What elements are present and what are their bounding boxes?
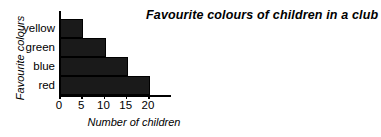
bar-row-green [61,38,211,57]
y-tick-label-green: green [14,38,57,57]
bar-row-blue [61,57,211,76]
bar-yellow [61,19,83,38]
x-axis-tick-labels: 05101520 [59,99,219,113]
x-tick-label-10: 10 [97,99,110,112]
y-axis-tick-labels: yellow green blue red [14,19,57,95]
bar-chart: Favourite colours of children in a club … [0,0,381,137]
bar-series [61,19,211,95]
x-tick-label-15: 15 [119,99,132,112]
x-axis-label: Number of children [59,116,209,128]
x-tick-label-5: 5 [78,99,84,112]
y-tick-label-yellow: yellow [14,19,57,38]
x-tick-label-0: 0 [56,99,62,112]
bar-row-red [61,76,211,95]
x-tick-label-20: 20 [142,99,155,112]
plot-area [59,11,154,95]
bar-green [61,38,106,57]
y-tick-label-red: red [14,76,57,95]
bar-row-yellow [61,19,211,38]
bar-blue [61,57,128,76]
y-tick-label-blue: blue [14,57,57,76]
bar-red [61,76,150,95]
